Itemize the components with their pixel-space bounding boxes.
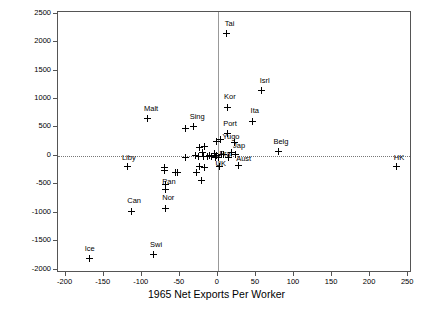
x-tick-label: 200: [349, 278, 389, 286]
x-axis-title: 1965 Net Exports Per Worker: [0, 288, 433, 300]
data-point: [235, 162, 242, 169]
y-tick-mark: [53, 240, 57, 241]
x-tick-label: -100: [121, 278, 161, 286]
y-tick-mark: [53, 98, 57, 99]
data-point: [192, 152, 199, 159]
data-point: [223, 30, 230, 37]
data-point: [213, 138, 220, 145]
x-tick-label: 100: [273, 278, 313, 286]
point-label: Tai: [225, 20, 235, 28]
x-tick-label: 250: [387, 278, 427, 286]
x-tick-label: -200: [45, 278, 85, 286]
x-tick-mark: [217, 272, 218, 276]
data-point: [258, 87, 265, 94]
data-point: [86, 255, 93, 262]
y-tick-label: -2000: [14, 265, 51, 273]
data-point: [162, 186, 169, 193]
data-point: [150, 251, 157, 258]
y-tick-label: 2500: [14, 9, 51, 17]
y-tick-label: 2000: [14, 37, 51, 45]
x-tick-mark: [255, 272, 256, 276]
point-label: Isrl: [260, 77, 270, 85]
point-label: Kor: [224, 93, 236, 101]
y-tick-mark: [53, 269, 57, 270]
x-tick-label: 50: [235, 278, 275, 286]
point-label: Ice: [85, 245, 95, 253]
point-label: Nor: [162, 194, 174, 202]
data-point: [193, 169, 200, 176]
x-tick-mark: [407, 272, 408, 276]
x-tick-label: -150: [83, 278, 123, 286]
y-tick-label: 0: [14, 151, 51, 159]
point-label: Can: [127, 197, 141, 205]
data-point: [224, 104, 231, 111]
x-tick-mark: [369, 272, 370, 276]
y-tick-mark: [53, 70, 57, 71]
point-label: Malt: [144, 105, 158, 113]
x-tick-mark: [331, 272, 332, 276]
data-point: [225, 154, 232, 161]
x-tick-mark: [103, 272, 104, 276]
data-point: [198, 177, 205, 184]
data-point: [144, 115, 151, 122]
point-label: Belg: [273, 138, 288, 146]
y-tick-label: 1500: [14, 66, 51, 74]
data-point: [249, 118, 256, 125]
x-tick-label: -50: [159, 278, 199, 286]
data-point: [182, 125, 189, 132]
point-label: Sing: [190, 113, 205, 121]
data-point: [201, 164, 208, 171]
x-tick-label: 150: [311, 278, 351, 286]
x-tick-mark: [65, 272, 66, 276]
x-tick-mark: [179, 272, 180, 276]
point-label: Swi: [150, 241, 162, 249]
y-tick-label: -500: [14, 179, 51, 187]
data-points-layer: TaiIsrlKorMaltItaSingPortYugoJapBelgFraA…: [58, 12, 410, 271]
point-label: UK: [216, 160, 226, 168]
y-tick-label: 500: [14, 122, 51, 130]
data-point: [275, 148, 282, 155]
y-tick-label: -1000: [14, 208, 51, 216]
data-point: [190, 123, 197, 130]
point-label: Ita: [251, 107, 259, 115]
data-point: [182, 154, 189, 161]
y-tick-mark: [53, 41, 57, 42]
point-label: Port: [223, 120, 237, 128]
data-point: [174, 169, 181, 176]
data-point: [161, 167, 168, 174]
y-tick-label: 1000: [14, 94, 51, 102]
x-tick-mark: [141, 272, 142, 276]
y-tick-mark: [53, 212, 57, 213]
y-tick-mark: [53, 13, 57, 14]
data-point: [393, 163, 400, 170]
data-point: [128, 208, 135, 215]
y-tick-mark: [53, 126, 57, 127]
x-tick-label: 0: [197, 278, 237, 286]
y-tick-mark: [53, 155, 57, 156]
y-tick-label: -1500: [14, 236, 51, 244]
plot-area: TaiIsrlKorMaltItaSingPortYugoJapBelgFraA…: [57, 11, 411, 272]
data-point: [124, 163, 131, 170]
y-tick-mark: [53, 183, 57, 184]
scatter-plot-figure: 1988 Net Exports TaiIsrlKorMaltItaSingPo…: [0, 0, 433, 314]
x-tick-mark: [293, 272, 294, 276]
point-label: Liby: [122, 154, 136, 162]
point-label: Pan: [162, 178, 175, 186]
data-point: [162, 205, 169, 212]
point-label: HK: [394, 154, 404, 162]
